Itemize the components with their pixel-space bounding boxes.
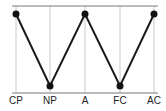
data-point-fc	[117, 83, 124, 90]
data-point-ac	[151, 11, 158, 18]
line-chart: CPNPAFCAC	[0, 0, 166, 111]
data-point-a	[82, 11, 89, 18]
x-tick-label-cp: CP	[9, 95, 23, 106]
x-tick-label-a: A	[82, 95, 89, 106]
gridlines	[16, 6, 154, 93]
x-tick-label-fc: FC	[113, 95, 126, 106]
x-tick-label-np: NP	[43, 95, 57, 106]
data-point-np	[47, 83, 54, 90]
x-tick-label-ac: AC	[147, 95, 161, 106]
x-axis-tick-labels: CPNPAFCAC	[9, 95, 161, 106]
data-point-cp	[13, 11, 20, 18]
